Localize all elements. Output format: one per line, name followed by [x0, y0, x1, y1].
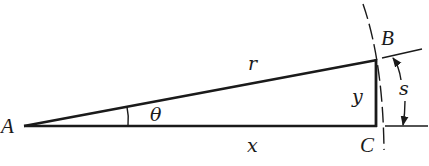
- triangle-arc-diagram: A B C r x y s θ: [0, 0, 429, 166]
- label-x: x: [247, 134, 258, 156]
- s-arrow-bottom: [403, 101, 405, 125]
- label-A: A: [0, 114, 14, 138]
- label-y: y: [351, 85, 363, 107]
- hypotenuse-r: [24, 60, 377, 126]
- extension-line-top: [382, 49, 422, 58]
- label-theta: θ: [150, 103, 162, 125]
- label-C: C: [360, 133, 375, 157]
- label-r: r: [248, 52, 259, 74]
- label-s: s: [399, 77, 409, 99]
- label-B: B: [381, 26, 394, 50]
- theta-angle-arc: [127, 107, 128, 126]
